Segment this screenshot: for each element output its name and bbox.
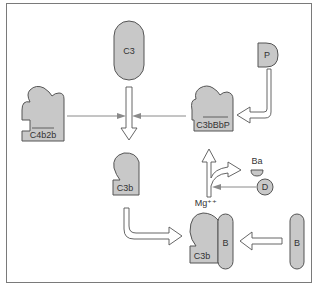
arrow-d-to-stem	[212, 184, 256, 190]
node-c3b-label: C3b	[117, 183, 134, 193]
node-d: D	[257, 179, 273, 195]
node-ba-label: Ba	[251, 156, 262, 166]
node-p: P	[258, 43, 278, 67]
arrow-c3-to-c3b	[121, 87, 137, 140]
complement-pathway-diagram: C3 C4b2b C3bBbP P C3b Ba D Mg⁺⁺ C3b B	[0, 0, 319, 292]
node-c3b: C3b	[113, 153, 139, 195]
node-c4b2b: C4b2b	[22, 86, 64, 141]
node-d-label: D	[262, 182, 269, 192]
node-c3: C3	[114, 21, 144, 80]
node-p-label: P	[264, 50, 270, 60]
mg-label: Mg⁺⁺	[195, 198, 218, 208]
arrow-p-to-c3bbbp	[237, 69, 271, 123]
arrow-c4b2b-to-c3	[67, 113, 126, 119]
node-c4b2b-label: C4b2b	[30, 130, 57, 140]
arrow-complex-to-c3bbbp	[202, 149, 241, 197]
arrow-c3bbbp-to-c3	[132, 113, 186, 119]
arrow-b-to-complex	[240, 232, 282, 250]
node-ba: Ba	[251, 156, 263, 176]
node-b-label: B	[294, 238, 300, 248]
node-c3bbbp-label: C3bBbP	[196, 120, 230, 130]
node-c3-label: C3	[123, 46, 135, 56]
node-c3bbbp: C3bBbP	[192, 86, 234, 131]
node-c3bb-complex: C3b B	[190, 213, 233, 269]
node-b: B	[290, 214, 304, 269]
arrow-c3b-to-complex	[124, 208, 182, 245]
node-complex-b-label: B	[222, 238, 228, 248]
node-complex-c3b-label: C3b	[194, 251, 211, 261]
